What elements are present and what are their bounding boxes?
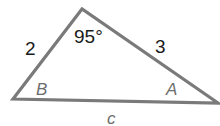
side-label-left: 2	[25, 38, 36, 59]
triangle-diagram: 2 95° 3 B A c	[0, 0, 220, 126]
angle-label-a: A	[165, 80, 177, 99]
side-label-right: 3	[155, 36, 166, 57]
angle-label-b: B	[36, 80, 47, 99]
angle-label-top: 95°	[74, 26, 103, 47]
side-label-bottom: c	[107, 109, 116, 126]
